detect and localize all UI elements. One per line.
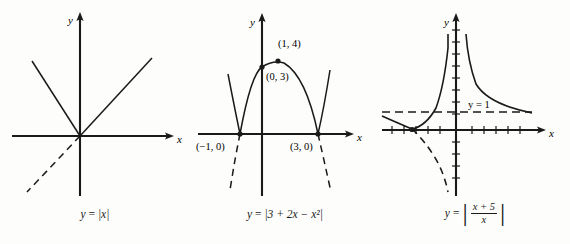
panel-2-caption: y = |3 + 2x − x²| — [247, 208, 323, 220]
caption-eq: = — [89, 208, 96, 220]
point-label-root-right: (3, 0) — [290, 141, 313, 153]
curve-dashed-reflection — [27, 136, 80, 192]
panel-1-caption: y = |x| — [81, 208, 110, 220]
curve-dashed-right — [318, 134, 331, 192]
x-axis-label: x — [356, 131, 362, 143]
caption-eq: = — [255, 208, 262, 220]
y-axis-label: y — [249, 16, 255, 28]
caption-lhs: y — [247, 208, 252, 220]
curve-outer-left — [228, 74, 240, 134]
y-axis-label: y — [443, 16, 449, 28]
figure-three-absolute-value-graphs: y x y = |x| — [0, 0, 570, 244]
graph-panel-abs-quadratic: y x (1, 4) (0, 3) (−1, 0) (3, 0) y = |3 … — [190, 0, 380, 244]
fraction-denominator: x — [479, 214, 488, 226]
point-label-y-intercept: (0, 3) — [266, 71, 289, 83]
point-marker-vertex — [275, 58, 280, 63]
curve-right-branch — [80, 58, 152, 136]
curve-dashed-reflection — [412, 129, 448, 192]
point-label-vertex: (1, 4) — [278, 38, 301, 50]
curve-left-branch — [32, 61, 80, 136]
abs-bar-right: | — [500, 200, 505, 226]
caption-rhs: |3 + 2x − x²| — [264, 208, 323, 220]
caption-eq: = — [453, 207, 460, 219]
graph-panel-abs-x: y x y = |x| — [0, 0, 190, 244]
panel-3-caption: y = | x + 5 x | — [445, 200, 505, 226]
point-label-root-left: (−1, 0) — [196, 141, 225, 153]
point-marker-y-intercept — [259, 64, 264, 69]
caption-rhs: |x| — [98, 208, 109, 220]
x-axis-label: x — [548, 127, 554, 139]
point-marker-x-intercept — [409, 127, 414, 132]
graph-panel-abs-rational: y x y = 1 y = | x + 5 x | — [380, 0, 570, 244]
abs-bar-left: | — [462, 200, 467, 226]
curve-dashed-left — [230, 134, 240, 190]
curve-outer-right — [318, 70, 330, 134]
x-axis-label: x — [176, 133, 182, 145]
curve-left-branch — [382, 34, 448, 129]
fraction: x + 5 x — [471, 201, 497, 226]
asymptote-label: y = 1 — [468, 99, 490, 110]
fraction-numerator: x + 5 — [471, 201, 497, 213]
caption-lhs: y — [445, 207, 450, 219]
point-marker-root-left — [237, 131, 242, 136]
caption-lhs: y — [81, 208, 86, 220]
y-axis-label: y — [67, 14, 73, 26]
point-marker-root-right — [315, 131, 320, 136]
